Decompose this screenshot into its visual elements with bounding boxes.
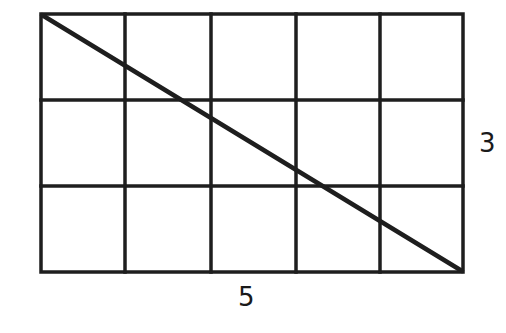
height-label: 3 <box>479 130 496 156</box>
width-label: 5 <box>238 284 255 310</box>
diagonal-line <box>42 15 462 271</box>
